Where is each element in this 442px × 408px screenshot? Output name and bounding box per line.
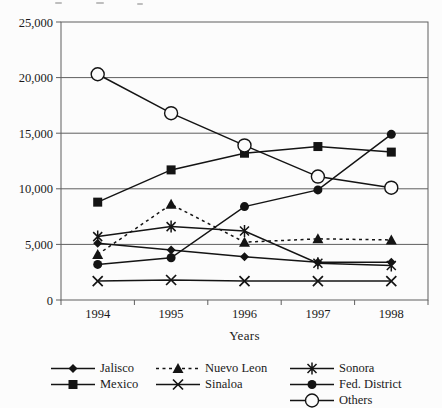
line-chart: 05,00010,00015,00020,00025,0001994199519… — [0, 0, 442, 345]
chart-legend: JaliscoMexicoNuevo LeonSinaloaSonoraFed.… — [0, 360, 442, 408]
legend-item-nuevo-leon: Nuevo Leon — [155, 360, 267, 376]
legend-item-mexico: Mexico — [50, 376, 138, 392]
legend-item-sinaloa: Sinaloa — [155, 376, 267, 392]
x-tick-label: 1996 — [232, 307, 257, 321]
legend-marker-asterisk — [289, 361, 335, 376]
series-others — [91, 68, 398, 194]
x-tick-label: 1995 — [159, 307, 184, 321]
legend-item-sonora: Sonora — [289, 360, 402, 376]
legend-label: Fed. District — [339, 377, 402, 392]
y-tick-label: 25,000 — [19, 16, 53, 30]
x-axis-title: Years — [61, 328, 428, 344]
legend-marker-diamond — [50, 361, 96, 376]
legend-item-jalisco: Jalisco — [50, 360, 138, 376]
y-tick-label: 10,000 — [19, 182, 53, 196]
legend-column-1: JaliscoMexico — [50, 360, 138, 392]
y-tick-label: 20,000 — [19, 71, 53, 85]
legend-marker-x — [155, 377, 201, 392]
legend-label: Mexico — [100, 377, 138, 392]
legend-item-others: Others — [289, 392, 402, 408]
legend-label: Nuevo Leon — [205, 361, 267, 376]
y-tick-label: 15,000 — [19, 127, 53, 141]
legend-label: Sonora — [339, 361, 374, 376]
legend-item-fed-district: Fed. District — [289, 376, 402, 392]
series-sinaloa — [93, 275, 397, 286]
y-tick-label: 0 — [47, 294, 53, 308]
legend-label: Sinaloa — [205, 377, 243, 392]
gridlines — [61, 78, 428, 245]
x-tick-label: 1994 — [85, 307, 111, 321]
legend-marker-square — [50, 377, 96, 392]
legend-label: Jalisco — [100, 361, 134, 376]
axes: 05,00010,00015,00020,00025,0001994199519… — [19, 16, 428, 322]
legend-marker-triangle — [155, 361, 201, 376]
caption-fragment — [55, 2, 62, 4]
caption-fragment — [96, 2, 104, 4]
legend-column-2: Nuevo LeonSinaloa — [155, 360, 267, 392]
caption-fragment — [137, 3, 143, 5]
x-tick-label: 1997 — [305, 307, 330, 321]
y-tick-label: 5,000 — [25, 238, 53, 252]
legend-column-3: SonoraFed. DistrictOthers — [289, 360, 402, 408]
x-tick-label: 1998 — [379, 307, 404, 321]
legend-label: Others — [339, 393, 372, 408]
legend-marker-dot — [289, 377, 335, 392]
chart-figure: 05,00010,00015,00020,00025,0001994199519… — [0, 0, 442, 408]
legend-marker-circle — [289, 393, 335, 408]
